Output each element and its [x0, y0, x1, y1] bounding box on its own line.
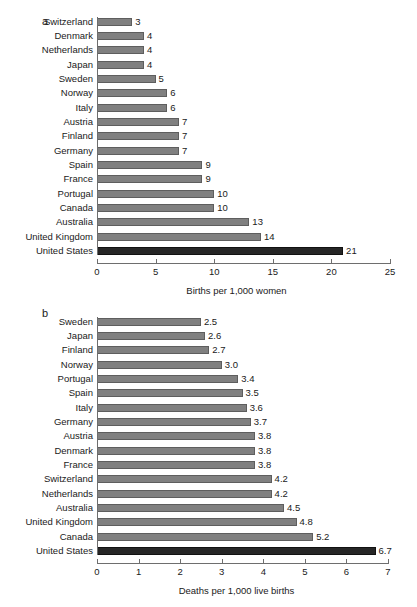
- bar-value-label: 5: [159, 74, 164, 84]
- x-axis-tick-label: 0: [82, 567, 112, 577]
- bar: [97, 132, 179, 140]
- x-axis-title: Births per 1,000 women: [0, 285, 417, 296]
- bar: [97, 61, 144, 69]
- bar-value-label: 3.0: [225, 360, 238, 370]
- bar: [97, 404, 247, 412]
- category-label: Portugal: [58, 189, 93, 199]
- x-axis-tick: [180, 559, 181, 563]
- x-axis-tick-label: 1: [124, 567, 154, 577]
- category-label: Switzerland: [44, 474, 93, 484]
- category-label: Italy: [76, 403, 93, 413]
- bar: [97, 218, 249, 226]
- x-axis-tick: [273, 259, 274, 263]
- bar: [97, 447, 255, 455]
- bar: [97, 118, 179, 126]
- bar-value-label: 2.6: [208, 331, 221, 341]
- bar: [97, 375, 238, 383]
- category-label: Norway: [61, 88, 93, 98]
- x-axis-tick: [214, 259, 215, 263]
- bar-value-label: 4.5: [287, 503, 300, 513]
- x-axis-tick-label: 5: [290, 567, 320, 577]
- bar-value-label: 10: [217, 189, 228, 199]
- bar: [97, 32, 144, 40]
- category-label: Portugal: [58, 374, 93, 384]
- x-axis-tick: [390, 259, 391, 263]
- bar-value-label: 3.4: [241, 374, 254, 384]
- chart-panel-a: a Switzerland3Denmark4Netherlands4Japan4…: [0, 0, 417, 310]
- bar: [97, 332, 205, 340]
- bar-value-label: 3.8: [258, 446, 271, 456]
- x-axis-tick-label: 10: [199, 267, 229, 277]
- x-axis-tick-label: 7: [373, 567, 403, 577]
- y-axis-spine: [97, 17, 98, 255]
- category-label: Denmark: [54, 446, 93, 456]
- x-axis-line: [97, 563, 389, 564]
- category-label: Spain: [69, 388, 93, 398]
- category-label: Canada: [60, 532, 93, 542]
- bar-highlighted: [97, 547, 376, 555]
- bar: [97, 147, 179, 155]
- bar-value-label: 4: [147, 45, 152, 55]
- x-axis-title-text: Deaths per 1,000 live births: [123, 585, 295, 596]
- x-axis-tick-label: 3: [207, 567, 237, 577]
- category-label: Denmark: [54, 31, 93, 41]
- bar-value-label: 6: [170, 88, 175, 98]
- bar: [97, 233, 261, 241]
- bar-value-label: 4: [147, 31, 152, 41]
- x-axis-tick: [222, 559, 223, 563]
- category-label: Austria: [63, 117, 93, 127]
- x-axis-tick: [97, 259, 98, 263]
- bar-value-label: 2.7: [212, 345, 225, 355]
- y-axis-spine: [97, 317, 98, 555]
- bar-value-label: 9: [205, 160, 210, 170]
- x-axis-tick-label: 0: [82, 267, 112, 277]
- category-label: Germany: [54, 146, 93, 156]
- bar-value-label: 4.2: [275, 474, 288, 484]
- category-label: France: [63, 174, 93, 184]
- bar-value-label: 7: [182, 146, 187, 156]
- bar-value-label: 3.8: [258, 431, 271, 441]
- x-axis-title-text: Births per 1,000 women: [130, 285, 286, 296]
- category-label: United Kingdom: [25, 517, 93, 527]
- bar: [97, 89, 167, 97]
- category-label: United States: [36, 546, 93, 556]
- bar: [97, 104, 167, 112]
- bar: [97, 490, 272, 498]
- bar-value-label: 5.2: [316, 532, 329, 542]
- bar-value-label: 6: [170, 103, 175, 113]
- bar: [97, 204, 214, 212]
- category-label: Australia: [56, 217, 93, 227]
- bar: [97, 533, 313, 541]
- x-axis-tick-label: 5: [141, 267, 171, 277]
- category-label: Norway: [61, 360, 93, 370]
- category-label: United States: [36, 246, 93, 256]
- bar: [97, 175, 202, 183]
- category-label: United Kingdom: [25, 232, 93, 242]
- bar-value-label: 10: [217, 203, 228, 213]
- bar-value-label: 7: [182, 131, 187, 141]
- bar: [97, 361, 222, 369]
- category-label: Australia: [56, 503, 93, 513]
- bar: [97, 18, 132, 26]
- bar-value-label: 3.8: [258, 460, 271, 470]
- bar-value-label: 3.5: [246, 388, 259, 398]
- bar-value-label: 4.2: [275, 489, 288, 499]
- category-label: Sweden: [59, 74, 93, 84]
- category-label: Switzerland: [44, 17, 93, 27]
- x-axis-tick-label: 6: [331, 567, 361, 577]
- x-axis-tick: [139, 559, 140, 563]
- category-label: Spain: [69, 160, 93, 170]
- panel-letter-b: b: [42, 308, 48, 319]
- x-axis-tick: [331, 259, 332, 263]
- x-axis-tick: [156, 259, 157, 263]
- bar-value-label: 14: [264, 232, 275, 242]
- bar: [97, 46, 144, 54]
- chart-panel-b: b Sweden2.5Japan2.6Finland2.7Norway3.0Po…: [0, 300, 417, 607]
- bar-value-label: 3.7: [254, 417, 267, 427]
- category-label: Finland: [62, 131, 93, 141]
- x-axis-tick: [263, 559, 264, 563]
- x-axis-tick: [346, 559, 347, 563]
- bar: [97, 75, 156, 83]
- x-axis-tick: [388, 559, 389, 563]
- bar-value-label: 2.5: [204, 317, 217, 327]
